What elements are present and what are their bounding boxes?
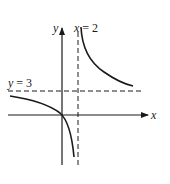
- upper-right-branch: [81, 27, 133, 86]
- y-axis-label: y: [52, 21, 59, 35]
- vertical-asymptote-var: x: [73, 21, 80, 35]
- horizontal-asymptote-eq: = 3: [16, 76, 32, 90]
- function-graph: y x = 2 y = 3 x: [0, 0, 170, 184]
- horizontal-asymptote-label: y = 3: [7, 76, 32, 90]
- vertical-asymptote-eq: = 2: [82, 21, 98, 35]
- x-axis-label: x: [150, 108, 157, 122]
- vertical-asymptote-label: x = 2: [73, 21, 98, 35]
- lower-left-branch: [10, 96, 74, 157]
- horizontal-asymptote-var: y: [7, 76, 14, 90]
